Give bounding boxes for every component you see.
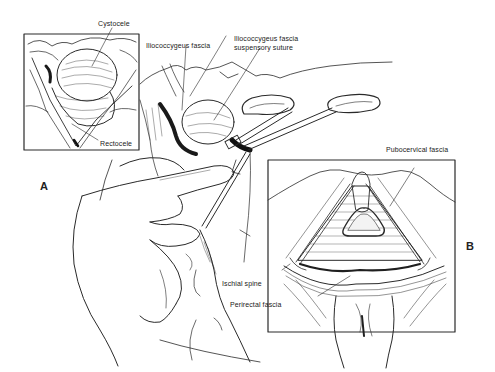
inset-b-drawing xyxy=(268,160,455,368)
label-suspensory-suture-line2: suspensory suture xyxy=(234,44,293,52)
label-suspensory-suture-line1: Iliococcygeus fascia xyxy=(234,35,298,43)
panel-label-b: B xyxy=(466,240,474,252)
surgical-illustration: Cystocele Rectocele Iliococcygeus fascia… xyxy=(0,0,495,372)
inset-a-drawing xyxy=(24,28,139,150)
label-perirectal-fascia: Perirectal fascia xyxy=(230,301,282,309)
line-drawing xyxy=(0,0,495,372)
label-pubocervical-fascia: Pubocervical fascia xyxy=(386,146,448,154)
panel-label-a: A xyxy=(40,180,48,192)
label-ischial-spine: Ischial spine xyxy=(222,280,262,288)
label-rectocele: Rectocele xyxy=(100,140,132,148)
label-cystocele: Cystocele xyxy=(98,20,130,28)
label-iliococcygeus-fascia: Iliococcygeus fascia xyxy=(146,42,210,50)
